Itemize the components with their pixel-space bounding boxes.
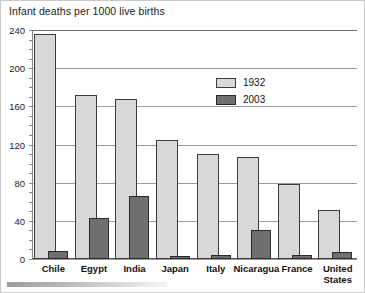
bar-1932-chile: [34, 34, 56, 259]
bar-group: [318, 30, 359, 259]
bar-group: [237, 30, 278, 259]
y-tick-label-40: 40: [0, 215, 25, 226]
y-minor-tick: [29, 78, 32, 79]
bar-2003-japan: [170, 256, 190, 259]
y-minor-tick: [29, 173, 32, 174]
horizontal-scrollbar[interactable]: [7, 282, 167, 287]
bar-group: [115, 30, 156, 259]
y-minor-tick: [29, 68, 32, 69]
chart-page: Infant deaths per 1000 live births 04080…: [0, 0, 365, 293]
y-tick-label-120: 120: [0, 139, 25, 150]
bar-group: [197, 30, 238, 259]
plot-area: [32, 30, 357, 259]
y-minor-tick: [29, 97, 32, 98]
y-minor-tick: [29, 249, 32, 250]
y-minor-tick: [29, 221, 32, 222]
y-tick-label-80: 80: [0, 177, 25, 188]
bar-1932-italy: [197, 154, 219, 259]
bar-2003-egypt: [89, 218, 109, 259]
chart-title: Infant deaths per 1000 live births: [9, 5, 165, 17]
y-minor-tick: [29, 87, 32, 88]
y-minor-tick: [29, 259, 32, 260]
legend-label-2003: 2003: [243, 94, 265, 105]
dark-gray-swatch: [216, 95, 236, 105]
y-minor-tick: [29, 125, 32, 126]
y-minor-tick: [29, 202, 32, 203]
y-minor-tick: [29, 116, 32, 117]
bar-group: [278, 30, 319, 259]
y-minor-tick: [29, 230, 32, 231]
y-minor-tick: [29, 240, 32, 241]
bar-group: [75, 30, 116, 259]
y-minor-tick: [29, 40, 32, 41]
legend-label-1932: 1932: [243, 77, 265, 88]
legend-item-2003: 2003: [216, 92, 265, 107]
y-minor-tick: [29, 183, 32, 184]
bar-2003-united-states: [332, 252, 352, 259]
bar-2003-france: [292, 255, 312, 259]
bar-group: [156, 30, 197, 259]
y-minor-tick: [29, 106, 32, 107]
y-minor-tick: [29, 49, 32, 50]
y-minor-tick: [29, 59, 32, 60]
bar-2003-chile: [48, 251, 68, 259]
y-minor-tick: [29, 192, 32, 193]
y-tick-label-0: 0: [0, 254, 25, 265]
y-minor-tick: [29, 154, 32, 155]
bar-group: [34, 30, 75, 259]
y-minor-tick: [29, 30, 32, 31]
light-gray-swatch: [216, 78, 236, 88]
bar-2003-india: [129, 196, 149, 259]
y-minor-tick: [29, 145, 32, 146]
bar-2003-nicaragua: [251, 230, 271, 259]
y-minor-tick: [29, 211, 32, 212]
bar-1932-japan: [156, 140, 178, 259]
bar-2003-italy: [211, 255, 231, 259]
legend-item-1932: 1932: [216, 75, 265, 90]
y-tick-label-240: 240: [0, 25, 25, 36]
bar-1932-france: [278, 184, 300, 259]
y-tick-label-200: 200: [0, 63, 25, 74]
x-axis-label-united-states: UnitedStates: [312, 263, 363, 285]
gridline-0: [32, 259, 357, 260]
y-minor-tick: [29, 135, 32, 136]
chart-legend: 19322003: [216, 75, 265, 109]
y-minor-tick: [29, 164, 32, 165]
y-tick-label-160: 160: [0, 101, 25, 112]
